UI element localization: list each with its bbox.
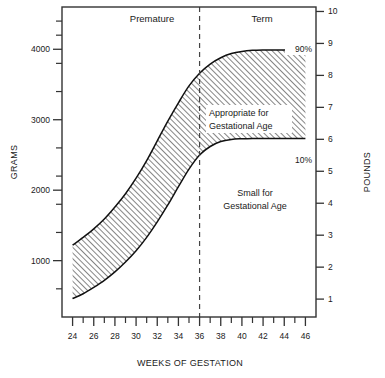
- weeks-ticks: [73, 317, 306, 326]
- weeks-tick-label: 42: [258, 331, 268, 341]
- pounds-tick-label: 2: [328, 262, 333, 272]
- weeks-tick-label: 26: [89, 331, 99, 341]
- weeks-tick-label: 44: [280, 331, 290, 341]
- growth-band: [73, 50, 306, 299]
- grams-minor-ticks: [56, 21, 62, 289]
- pounds-tick-label: 6: [328, 134, 333, 144]
- grams-tick-label: 1000: [31, 256, 50, 266]
- grams-tick-labels: 1000200030004000: [31, 44, 50, 265]
- grams-tick-label: 3000: [31, 115, 50, 125]
- pounds-tick-label: 8: [328, 70, 333, 80]
- pounds-tick-label: 10: [328, 6, 338, 16]
- grams-major-ticks: [53, 49, 62, 260]
- weeks-tick-label: 34: [174, 331, 184, 341]
- weeks-tick-label: 32: [153, 331, 163, 341]
- pounds-tick-label: 1: [328, 294, 333, 304]
- premature-label: Premature: [130, 13, 174, 24]
- weeks-tick-label: 40: [237, 331, 247, 341]
- weeks-tick-label: 38: [216, 331, 226, 341]
- pounds-axis-title: POUNDS: [362, 152, 372, 192]
- percentile-10-label: 10%: [295, 155, 312, 165]
- percentile-90-label: 90%: [295, 44, 312, 54]
- grams-tick-label: 4000: [31, 44, 50, 54]
- weeks-tick-label: 46: [301, 331, 311, 341]
- pounds-tick-label: 5: [328, 166, 333, 176]
- fetal-growth-chart: 1000200030004000 12345678910 24262830323…: [0, 0, 385, 378]
- weeks-tick-label: 24: [68, 331, 78, 341]
- chart-canvas: 1000200030004000 12345678910 24262830323…: [0, 0, 385, 378]
- pounds-ticks: [316, 11, 324, 299]
- weeks-tick-labels: 242628303234363840424446: [68, 331, 311, 341]
- term-label: Term: [251, 13, 272, 24]
- pounds-tick-labels: 12345678910: [328, 6, 338, 304]
- small-label-line1: Small for: [237, 188, 273, 198]
- pounds-tick-label: 4: [328, 198, 333, 208]
- pounds-tick-label: 9: [328, 38, 333, 48]
- weeks-tick-label: 30: [131, 331, 141, 341]
- weeks-tick-label: 36: [195, 331, 205, 341]
- pounds-tick-label: 3: [328, 230, 333, 240]
- appropriate-label-line1: Appropriate for: [209, 108, 269, 118]
- grams-axis-title: GRAMS: [9, 145, 19, 180]
- weeks-tick-label: 28: [110, 331, 120, 341]
- appropriate-label-line2: Gestational Age: [209, 121, 273, 131]
- grams-tick-label: 2000: [31, 185, 50, 195]
- weeks-axis-title: WEEKS OF GESTATION: [137, 358, 243, 368]
- pounds-tick-label: 7: [328, 102, 333, 112]
- small-label-line2: Gestational Age: [223, 201, 287, 211]
